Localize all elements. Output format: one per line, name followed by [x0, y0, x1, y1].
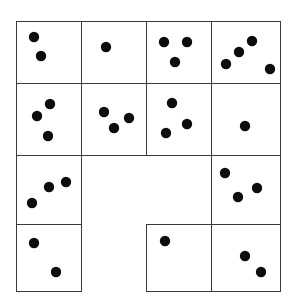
dot-row-2-col-1-2 — [32, 111, 42, 121]
grid-cell-row-1-col-4 — [212, 22, 281, 84]
grid-cell-row-1-col-1 — [17, 22, 82, 84]
dot-row-2-col-1-3 — [43, 131, 53, 141]
dot-row-1-col-3-1 — [159, 37, 169, 47]
dot-row-3-col-1-2 — [61, 177, 71, 187]
dot-row-1-col-2-1 — [101, 42, 111, 52]
dot-row-2-col-2-1 — [99, 107, 109, 117]
dot-row-3-col-1-1 — [44, 182, 54, 192]
dot-row-2-col-3-3 — [161, 128, 171, 138]
dot-row-4-col-4-1 — [240, 251, 250, 261]
dot-row-2-col-2-2 — [124, 113, 134, 123]
grid-cell-row-1-col-3 — [147, 22, 212, 84]
grid-cell-row-4-col-3 — [147, 225, 212, 292]
dot-row-3-col-4-1 — [220, 168, 230, 178]
dot-row-1-col-3-3 — [170, 57, 180, 67]
grid-cell-row-1-col-2 — [82, 22, 147, 84]
dot-row-1-col-3-2 — [182, 37, 192, 47]
grid-cell-row-2-col-1 — [17, 84, 82, 156]
grid-cell-row-2-col-3 — [147, 84, 212, 156]
dot-row-3-col-1-3 — [27, 198, 37, 208]
grid-cell-row-3-col-4 — [212, 156, 281, 225]
dot-row-1-col-1-1 — [29, 32, 39, 42]
dot-grid-canvas — [0, 0, 292, 308]
dot-row-1-col-4-2 — [234, 47, 244, 57]
dot-row-4-col-3-1 — [160, 236, 170, 246]
dot-row-1-col-4-1 — [247, 36, 257, 46]
dot-row-4-col-1-1 — [29, 238, 39, 248]
grid-cell-row-2-col-4 — [212, 84, 281, 156]
dot-grid-figure — [0, 0, 292, 308]
dot-row-2-col-3-2 — [182, 119, 192, 129]
dot-row-1-col-1-2 — [36, 51, 46, 61]
grid-cell-row-2-col-2 — [82, 84, 147, 156]
dot-row-1-col-4-3 — [221, 59, 231, 69]
dot-row-1-col-4-4 — [265, 64, 275, 74]
dot-row-4-col-1-2 — [51, 267, 61, 277]
dot-row-2-col-1-1 — [45, 99, 55, 109]
dot-row-2-col-3-1 — [167, 98, 177, 108]
dot-row-3-col-4-2 — [252, 183, 262, 193]
grid-cell-row-4-col-1 — [17, 225, 82, 292]
dot-row-2-col-2-3 — [109, 123, 119, 133]
dot-row-2-col-4-1 — [240, 121, 250, 131]
dot-row-3-col-4-3 — [233, 192, 243, 202]
dot-row-4-col-4-2 — [256, 267, 266, 277]
